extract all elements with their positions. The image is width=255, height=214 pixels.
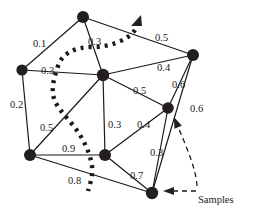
edge-right-bottom-weight-label: 0.6 bbox=[190, 104, 203, 115]
edge-right-bottom bbox=[152, 55, 193, 193]
node-left bbox=[16, 64, 27, 75]
node-bottom bbox=[146, 187, 158, 199]
edge-center-right bbox=[103, 55, 193, 75]
node-bottom-center bbox=[99, 149, 111, 161]
annotation-leader-layer bbox=[163, 116, 197, 195]
edge-left-center bbox=[22, 70, 103, 75]
edge-bottomcenter-midright-weight-label: 0.4 bbox=[137, 120, 150, 131]
node-top bbox=[77, 11, 89, 23]
edge-center-bottomcenter bbox=[103, 75, 105, 155]
edge-bottomleft-center-weight-label: 0.5 bbox=[40, 123, 53, 134]
edge-left-center-weight-label: 0.3 bbox=[41, 66, 54, 77]
edge-center-right-weight-label: 0.4 bbox=[157, 63, 170, 74]
edge-top-center-weight-label: 0.3 bbox=[88, 37, 101, 48]
node-right bbox=[187, 49, 199, 61]
curve-direction-arrowhead bbox=[131, 15, 142, 26]
edge-top-right-weight-label: 0.5 bbox=[155, 33, 168, 44]
samples-leader-arrowhead-bottom bbox=[163, 187, 174, 195]
samples-leader-to-midright-edge bbox=[176, 122, 197, 186]
edge-left-bottomleft-weight-label: 0.2 bbox=[10, 100, 23, 111]
samples-annotation-label: Samples bbox=[198, 195, 234, 206]
edge-bottomleft-bottomcenter-weight-label: 0.9 bbox=[62, 144, 75, 155]
edge-right-midright-weight-label: 0.6 bbox=[172, 80, 185, 91]
node-bottom-left bbox=[24, 149, 36, 161]
edge-bottomleft-bottom-weight-label: 0.8 bbox=[68, 176, 81, 187]
node-center bbox=[97, 69, 109, 81]
edge-bottomcenter-bottom-weight-label: 0.7 bbox=[130, 171, 143, 182]
graph-svg bbox=[0, 0, 255, 214]
dotted-sample-boundary-curve bbox=[53, 30, 135, 191]
edge-top-left bbox=[22, 17, 83, 70]
node-mid-right bbox=[162, 102, 174, 114]
edge-center-bottomcenter-weight-label: 0.3 bbox=[108, 120, 121, 131]
edge-midright-bottom-weight-label: 0.3 bbox=[150, 148, 163, 159]
edge-bottomcenter-bottom bbox=[105, 155, 152, 193]
edge-top-left-weight-label: 0.1 bbox=[33, 39, 46, 50]
edge-center-midright-weight-label: 0.5 bbox=[133, 86, 146, 97]
figure-canvas: 0.10.30.50.30.40.60.20.50.60.50.30.40.90… bbox=[0, 0, 255, 214]
edge-left-bottomleft bbox=[22, 70, 30, 155]
